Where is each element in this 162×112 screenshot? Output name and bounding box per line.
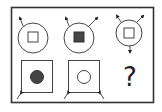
arrow-down-left-icon	[17, 93, 21, 99]
inner-square-white	[28, 32, 38, 42]
cell-top-2	[64, 18, 97, 53]
inner-square-white	[124, 28, 134, 38]
cell-top-1	[18, 18, 48, 53]
question-mark: ?	[118, 62, 142, 92]
cell-top-3	[116, 16, 143, 52]
arrow-down-left-icon	[64, 93, 68, 99]
inner-square-dark	[74, 32, 84, 42]
arrow-up-left-icon	[20, 18, 23, 26]
arrow-up-right-icon	[137, 16, 143, 22]
arrow-up-left-icon	[66, 18, 69, 26]
inner-circle-white	[78, 71, 91, 84]
arrow-up-left-icon	[117, 16, 121, 22]
puzzle-figure	[0, 0, 162, 112]
arrow-up-right-icon	[89, 18, 97, 26]
inner-circle-dark	[31, 71, 44, 84]
cell-bottom-2	[64, 61, 104, 100]
cell-bottom-1	[17, 61, 53, 100]
arrow-down-right-icon	[100, 93, 104, 99]
